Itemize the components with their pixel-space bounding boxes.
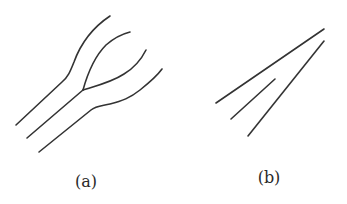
panel-a-label: (a) <box>75 172 97 191</box>
panel-a-middle-branch-lower <box>83 50 146 90</box>
panel-a-middle-branch-upper <box>83 32 130 90</box>
panel-a-lower-line <box>39 69 162 152</box>
panel-b-label: (b) <box>258 168 281 187</box>
panel-b-short-line <box>231 79 275 119</box>
panel-b-upper-line <box>216 29 324 103</box>
panel-b-drawing <box>216 29 324 136</box>
panel-a-drawing <box>16 16 162 152</box>
panel-a-middle-trunk <box>27 90 83 138</box>
panel-a-upper-line <box>16 16 110 125</box>
diagram-canvas <box>0 0 347 204</box>
